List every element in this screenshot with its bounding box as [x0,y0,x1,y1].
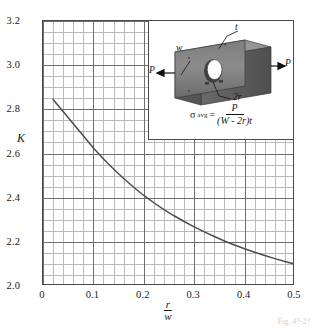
figure-container: 2.0 2.2 2.4 2.6 2.8 3.0 3.2 0 0.1 0.2 0.… [0,0,316,328]
average-stress-formula: σavg = P (W - 2r)t [190,103,252,126]
y-tick-label: 2.2 [7,235,20,246]
force-arrow-right [271,63,285,69]
formula-denominator: (W - 2r)t [217,115,252,127]
sigma-symbol: σ [190,109,195,120]
y-tick-label: 2.8 [7,103,20,114]
hole-opening [207,60,222,80]
y-tick-label: 3.0 [7,59,20,70]
surface-mark [188,57,190,59]
figure-caption: Fig. 4?-2? [278,317,310,326]
equals-sign: = [209,109,215,120]
y-tick-label: 3.2 [7,15,20,26]
y-tick-label: 2.6 [7,147,20,158]
label-force-right: P [285,58,291,68]
x-tick-label: 0.3 [186,289,199,300]
x-tick-label: 0.2 [136,289,149,300]
y-axis-title: K [17,131,25,146]
x-axis-title-denominator: w [164,311,172,322]
formula-fraction: P (W - 2r)t [217,103,252,126]
y-tick-label: 2.4 [7,191,20,202]
surface-mark [188,90,190,92]
label-w: w [176,43,182,53]
sigma-subscript: avg [197,111,207,119]
surface-mark [224,44,226,46]
y-tick-label: 2.0 [7,280,20,291]
x-tick-label: 0.1 [86,289,99,300]
label-t: t [235,22,238,32]
surface-mark [219,80,223,83]
surface-mark [205,82,209,85]
x-tick-label: 0.5 [287,289,300,300]
inset-diagram: w t 2r P P σavg = P (W - 2r)t [148,20,294,140]
x-tick-label: 0 [39,289,44,300]
force-arrow-left [157,70,175,76]
label-force-left: P [149,65,155,75]
formula-numerator: P [226,103,244,115]
label-2r: 2r [233,92,241,102]
x-axis-title: r w [164,299,172,322]
x-tick-label: 0.4 [237,289,250,300]
